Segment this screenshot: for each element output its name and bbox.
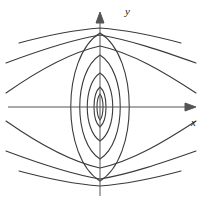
y-axis-label: y: [125, 6, 130, 17]
x-axis-arrowhead: [185, 103, 196, 111]
confocal-curves-plot: [0, 0, 209, 204]
figure-canvas: y x: [0, 0, 209, 204]
x-axis-label: x: [191, 117, 196, 128]
y-axis-arrowhead: [96, 12, 104, 23]
